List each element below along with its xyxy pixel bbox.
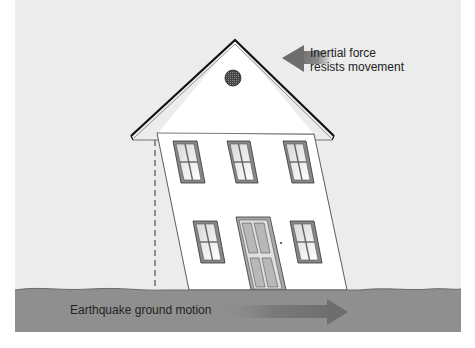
ground-motion-label: Earthquake ground motion [70, 303, 211, 317]
inertial-force-label-line1: Inertial force [310, 46, 404, 60]
inertial-force-label: Inertial force resists movement [310, 46, 404, 74]
door-knob-icon [280, 242, 282, 244]
inertial-force-label-line2: resists movement [310, 60, 404, 74]
diagram-canvas: Inertial force resists movement Earthqua… [0, 0, 475, 348]
attic-vent-icon [225, 70, 241, 86]
